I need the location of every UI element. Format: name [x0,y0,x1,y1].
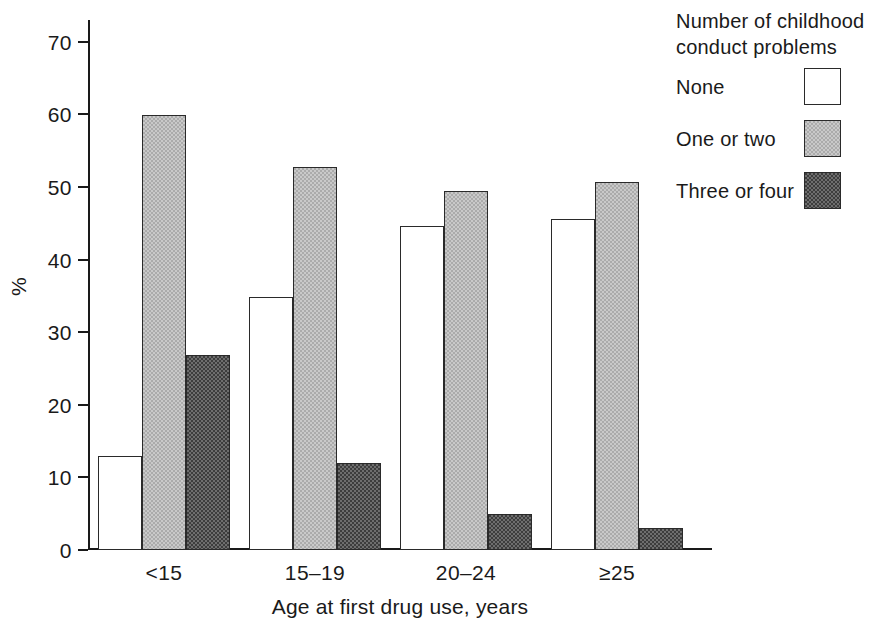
bar-15-none [98,456,142,550]
bar-15-one-or-two [142,115,186,550]
legend-swatch-white-square [804,68,841,105]
x-axis-tick-label: 20–24 [406,562,526,583]
x-axis-title: Age at first drug use, years [88,596,712,617]
y-axis-title: % [8,277,29,296]
bars-layer [88,20,712,550]
y-axis-tick [78,113,88,115]
y-axis-tick-label: 30 [12,322,72,343]
legend-entry-label: One or two [676,128,776,150]
y-axis-tick-label: 0 [12,540,72,561]
legend: Number of childhood conduct problems Non… [676,8,871,216]
y-axis-tick [78,549,88,551]
x-axis-tick-label: ≥25 [557,562,677,583]
legend-entry: None [676,66,871,112]
y-axis-tick-label: 20 [12,395,72,416]
bar-25-none [551,219,595,550]
bar-2024-three-or-four [488,514,532,550]
y-axis-tick [78,476,88,478]
bar-15-three-or-four [186,355,230,550]
legend-entry: Three or four [676,170,871,216]
bar-1519-none [249,297,293,550]
y-axis-tick-label: 70 [12,32,72,53]
x-axis-tick-label: 15–19 [255,562,375,583]
y-axis-tick [78,331,88,333]
bar-25-one-or-two [595,182,639,550]
legend-title-line-2: conduct problems [676,34,871,60]
x-axis-tick-label: <15 [104,562,224,583]
y-axis-tick [78,41,88,43]
y-axis-tick-label: 60 [12,104,72,125]
y-axis-tick-label: 40 [12,250,72,271]
bar-25-three-or-four [639,528,683,550]
legend-entry: One or two [676,118,871,164]
legend-swatch-light-gray-square [804,120,841,157]
legend-entry-label: Three or four [676,180,794,202]
bar-1519-one-or-two [293,167,337,550]
bar-2024-one-or-two [444,191,488,550]
legend-title-line-1: Number of childhood [676,8,871,34]
bar-1519-three-or-four [337,463,381,550]
y-axis-tick [78,404,88,406]
y-axis-tick [78,186,88,188]
legend-entries: NoneOne or twoThree or four [676,66,871,216]
y-axis-tick [78,259,88,261]
bar-2024-none [400,226,444,550]
bar-chart-figure: 010203040506070 % <1515–1920–24≥25 Age a… [0,0,871,618]
y-axis-tick-label: 10 [12,467,72,488]
legend-swatch-dark-gray-square [804,172,841,209]
y-axis-tick-label: 50 [12,177,72,198]
legend-entry-label: None [676,76,725,98]
